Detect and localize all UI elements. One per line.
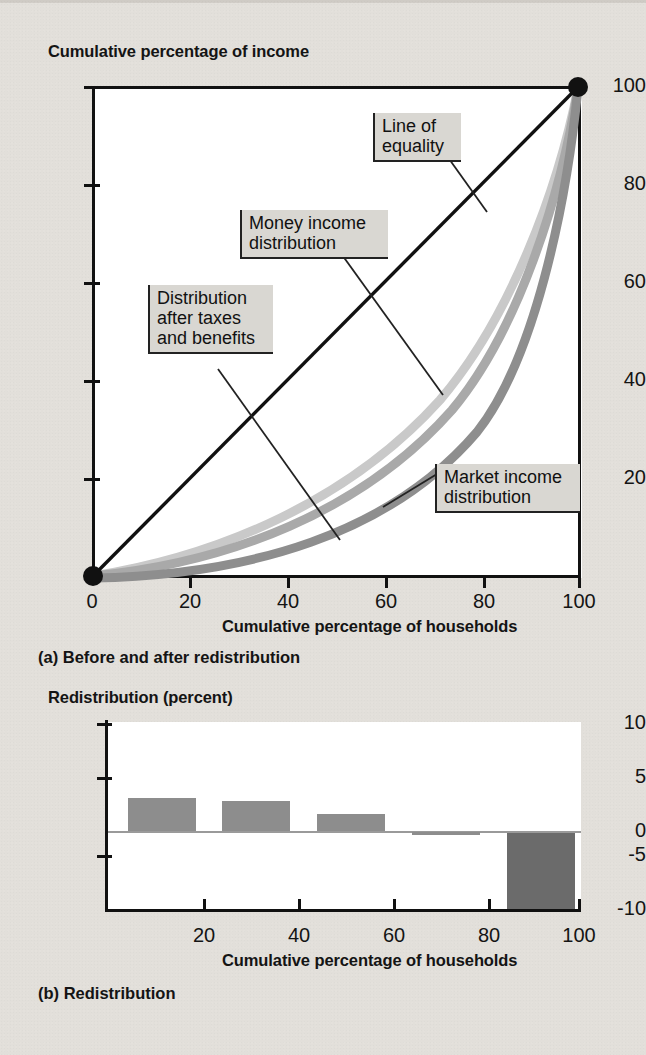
panel-b-xlabel-40: 40 [279, 924, 319, 947]
bar-quintile-4 [412, 832, 480, 835]
bar-quintile-1 [128, 798, 196, 831]
panel-b-caption: (b) Redistribution [38, 984, 175, 1003]
panel-b-xtick-20 [203, 899, 206, 911]
panel-b-xlabel-100: 100 [556, 924, 602, 947]
panel-b-xlabel-60: 60 [374, 924, 414, 947]
panel-b-xlabel-20: 20 [184, 924, 224, 947]
panel-b-xlabel-80: 80 [469, 924, 509, 947]
figure-page: Cumulative percentage of income 100 80 6… [0, 0, 646, 1055]
panel-b-x-axis [105, 909, 581, 912]
bar-quintile-3 [317, 814, 385, 831]
bar-quintile-5 [507, 833, 575, 909]
bar-quintile-2 [222, 801, 290, 831]
panel-b-x-axis-title: Cumulative percentage of households [222, 951, 517, 970]
panel-b-ylabel-10: 10 [550, 711, 646, 734]
panel-b-y-axis [105, 720, 108, 912]
panel-b-ytick-5 [97, 777, 112, 780]
panel-b-xtick-40 [298, 899, 301, 911]
panel-b-xtick-60 [393, 899, 396, 911]
panel-b-xtick-100 [578, 899, 581, 911]
panel-b-ytick-10 [97, 723, 112, 726]
panel-b-y-axis-title: Redistribution (percent) [48, 688, 233, 707]
panel-b-xtick-80 [488, 899, 491, 911]
panel-b-chart: Redistribution (percent) 10 5 0 -5 -10 2… [0, 0, 646, 1055]
panel-b-ytick-neg5 [97, 855, 112, 858]
panel-b-ylabel-5: 5 [550, 765, 646, 788]
